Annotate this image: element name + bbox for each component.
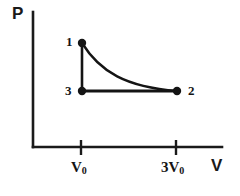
tick-label-v0-text: V bbox=[71, 159, 82, 175]
tick-label-v0: V0 bbox=[71, 160, 87, 175]
state-point-2 bbox=[173, 87, 181, 95]
state-point-1 bbox=[78, 39, 86, 47]
tick-label-3v0-subscript: 0 bbox=[179, 165, 184, 176]
state-point-label-3: 3 bbox=[65, 84, 72, 97]
v-axis-label: V bbox=[211, 157, 222, 174]
pv-diagram-canvas bbox=[0, 0, 240, 196]
state-point-3 bbox=[78, 87, 86, 95]
tick-label-3v0-text: 3V bbox=[161, 159, 179, 175]
process-path-1-to-2 bbox=[82, 43, 177, 91]
state-point-label-2: 2 bbox=[188, 84, 195, 97]
tick-label-3v0: 3V0 bbox=[161, 160, 184, 175]
state-point-label-1: 1 bbox=[66, 35, 73, 48]
pv-diagram-figure: P V V0 3V0 1 3 2 bbox=[0, 0, 240, 196]
tick-label-v0-subscript: 0 bbox=[82, 165, 87, 176]
p-axis-label: P bbox=[12, 5, 23, 22]
